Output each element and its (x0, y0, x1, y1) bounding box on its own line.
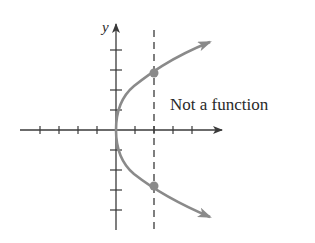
vertical-line-test-diagram: y Not a function (0, 0, 315, 243)
intersection-point-lower (150, 182, 159, 191)
y-axis-label: y (100, 19, 109, 35)
x-axis (20, 126, 222, 134)
intersection-point-upper (150, 69, 159, 78)
not-a-function-label: Not a function (170, 95, 269, 114)
parabola-lower-branch (116, 130, 210, 217)
parabola-upper-branch (116, 42, 210, 130)
